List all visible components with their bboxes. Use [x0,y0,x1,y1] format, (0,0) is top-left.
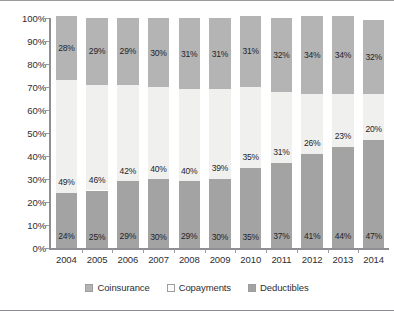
bar-segment-value-label: 25% [89,233,105,242]
legend-swatch-icon [85,284,93,292]
bar-segment-copayments[interactable]: 39% [209,89,231,179]
bar-segment-coinsurance[interactable]: 31% [240,16,262,87]
x-axis-tick-mark [328,249,329,253]
bar-column[interactable]: 30%40%30% [148,18,170,248]
bar-segment-value-label: 40% [150,165,166,174]
bar-segment-copayments[interactable]: 23% [332,94,354,147]
x-axis-tick-label: 2005 [87,254,108,265]
bar-segment-deductibles[interactable]: 44% [332,147,354,248]
legend-item-coinsurance[interactable]: Coinsurance [85,282,149,293]
x-axis-tick-label: 2007 [148,254,169,265]
bar-segment-value-label: 32% [365,53,381,62]
bar-segment-coinsurance[interactable]: 31% [179,18,201,89]
bar-segment-value-label: 31% [273,148,289,157]
bar-segment-value-label: 35% [243,153,259,162]
bar-segment-deductibles[interactable]: 25% [86,191,108,249]
bar-segment-copayments[interactable]: 26% [301,94,323,154]
x-axis-tick-label: 2004 [56,254,77,265]
y-axis-tick-mark [45,225,49,226]
y-axis-tick-label: 70% [27,82,46,93]
bar-segment-coinsurance[interactable]: 34% [332,16,354,94]
bar-segment-value-label: 31% [181,49,197,58]
bar-segment-coinsurance[interactable]: 31% [209,18,231,89]
bar-segment-copayments[interactable]: 46% [86,85,108,191]
bar-column[interactable]: 29%40%31% [179,18,201,248]
x-axis-tick-mark [174,249,175,253]
legend-swatch-icon [167,284,175,292]
bar-segment-deductibles[interactable]: 24% [56,193,78,248]
bar-segment-copayments[interactable]: 20% [363,94,385,140]
bar-segment-copayments[interactable]: 40% [179,89,201,181]
legend-swatch-icon [248,284,256,292]
bar-column[interactable]: 47%20%32% [363,18,385,248]
bar-segment-value-label: 41% [304,232,320,241]
y-axis-tick-label: 50% [27,128,46,139]
stacked-bar-chart: 0%10%20%30%40%50%60%70%80%90%100% 24%49%… [0,1,394,311]
bar-segment-coinsurance[interactable]: 32% [271,18,293,92]
bar-column[interactable]: 37%31%32% [271,18,293,248]
x-axis-tick-label: 2013 [333,254,354,265]
bar-segment-coinsurance[interactable]: 29% [86,18,108,85]
x-axis-tick-mark [297,249,298,253]
y-axis-tick-label: 100% [22,13,46,24]
y-axis-tick-mark [45,64,49,65]
x-axis-tick-label: 2008 [179,254,200,265]
y-axis-tick-label: 0% [32,243,46,254]
bar-column[interactable]: 44%23%34% [332,18,354,248]
bar-segment-copayments[interactable]: 35% [240,87,262,168]
bar-segment-deductibles[interactable]: 30% [209,179,231,248]
y-axis-tick-mark [45,248,49,249]
bar-segment-coinsurance[interactable]: 30% [148,18,170,87]
bar-segment-coinsurance[interactable]: 34% [301,16,323,94]
bar-segment-value-label: 26% [304,139,320,148]
bar-segment-deductibles[interactable]: 35% [240,168,262,249]
x-axis-tick-mark [112,249,113,253]
bar-segment-value-label: 39% [212,164,228,173]
bar-segment-deductibles[interactable]: 47% [363,140,385,248]
x-axis-tick-mark [235,249,236,253]
bar-segment-copayments[interactable]: 40% [148,87,170,179]
legend-label: Deductibles [260,282,309,293]
bar-segment-coinsurance[interactable]: 29% [117,18,139,85]
bar-segment-copayments[interactable]: 42% [117,85,139,182]
bar-segment-value-label: 34% [335,51,351,60]
bar-segment-value-label: 32% [273,51,289,60]
x-axis-tick-label: 2010 [240,254,261,265]
bar-segment-copayments[interactable]: 49% [56,80,78,193]
bar-segment-deductibles[interactable]: 29% [117,181,139,248]
bar-segment-deductibles[interactable]: 29% [179,181,201,248]
x-axis-line [49,248,389,250]
legend-label: Copayments [179,282,231,293]
legend-item-deductibles[interactable]: Deductibles [248,282,309,293]
bar-segment-coinsurance[interactable]: 32% [363,20,385,94]
bar-column[interactable]: 29%42%29% [117,18,139,248]
bar-column[interactable]: 25%46%29% [86,18,108,248]
x-axis-tick-label: 2014 [363,254,384,265]
y-axis-tick-mark [45,87,49,88]
bar-segment-deductibles[interactable]: 30% [148,179,170,248]
legend-item-copayments[interactable]: Copayments [167,282,231,293]
bar-column[interactable]: 30%39%31% [209,18,231,248]
bar-segment-value-label: 30% [150,233,166,242]
y-axis-tick-mark [45,110,49,111]
bar-segment-value-label: 29% [89,47,105,56]
bar-segment-copayments[interactable]: 31% [271,92,293,163]
bar-segment-value-label: 40% [181,167,197,176]
x-axis-tick-label: 2011 [271,254,291,265]
bar-segment-value-label: 28% [58,44,74,53]
bar-segment-deductibles[interactable]: 37% [271,163,293,248]
bar-column[interactable]: 35%35%31% [240,18,262,248]
x-axis-tick-label: 2009 [210,254,231,265]
bar-segment-value-label: 49% [58,178,74,187]
bar-segment-coinsurance[interactable]: 28% [56,16,78,80]
bar-column[interactable]: 41%26%34% [301,18,323,248]
x-axis-tick-mark [143,249,144,253]
bar-series-group: 24%49%28%25%46%29%29%42%29%30%40%30%29%4… [51,18,389,248]
bar-segment-deductibles[interactable]: 41% [301,154,323,248]
bar-segment-value-label: 35% [243,233,259,242]
y-axis-tick-label: 40% [27,151,46,162]
bar-segment-value-label: 20% [365,125,381,134]
chart-frame: 0%10%20%30%40%50%60%70%80%90%100% 24%49%… [0,0,394,311]
bar-column[interactable]: 24%49%28% [56,18,78,248]
y-axis-tick-mark [45,156,49,157]
